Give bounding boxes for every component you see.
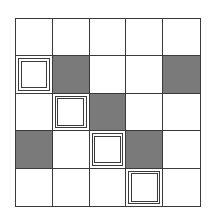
grid-cell-r1-c3-white bbox=[126, 56, 163, 93]
grid-cell-r0-c2-white bbox=[90, 19, 127, 56]
grid-cell-r1-c2-white bbox=[90, 56, 127, 93]
double-frame-square bbox=[128, 171, 160, 204]
grid-cell-r4-c0-white bbox=[16, 169, 53, 206]
inner-frame bbox=[131, 173, 158, 201]
grid-cell-r1-c0-framed bbox=[16, 56, 53, 93]
grid-cell-r1-c4-gray bbox=[163, 56, 200, 93]
grid-cell-r2-c0-white bbox=[16, 94, 53, 131]
double-frame-square bbox=[18, 58, 50, 90]
double-frame-square bbox=[55, 96, 87, 128]
grid-cell-r4-c4-white bbox=[163, 169, 200, 206]
inner-frame bbox=[57, 98, 84, 125]
grid-cell-r4-c1-white bbox=[53, 169, 90, 206]
grid-cell-r0-c4-white bbox=[163, 19, 200, 56]
grid-cell-r0-c1-white bbox=[53, 19, 90, 56]
grid-cell-r1-c1-gray bbox=[53, 56, 90, 93]
grid-cell-r0-c3-white bbox=[126, 19, 163, 56]
grid-cell-r3-c4-white bbox=[163, 131, 200, 168]
grid-cell-r0-c0-white bbox=[16, 19, 53, 56]
grid-cell-r2-c3-white bbox=[126, 94, 163, 131]
grid-cell-r3-c1-white bbox=[53, 131, 90, 168]
inner-frame bbox=[94, 136, 121, 163]
grid-cell-r4-c2-white bbox=[90, 169, 127, 206]
grid-cell-r3-c0-gray bbox=[16, 131, 53, 168]
inner-frame bbox=[21, 61, 48, 88]
grid-cell-r2-c1-framed bbox=[53, 94, 90, 131]
puzzle-grid bbox=[15, 18, 201, 207]
grid-cell-r3-c2-framed bbox=[90, 131, 127, 168]
grid-cell-r3-c3-gray bbox=[126, 131, 163, 168]
grid-cell-r2-c4-white bbox=[163, 94, 200, 131]
grid-cell-r4-c3-framed bbox=[126, 169, 163, 206]
double-frame-square bbox=[92, 133, 124, 165]
grid-cell-r2-c2-gray bbox=[90, 94, 127, 131]
